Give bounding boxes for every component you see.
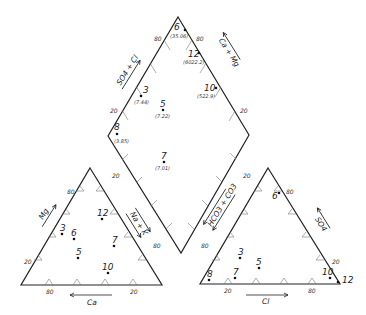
svg-text:12: 12: [97, 208, 109, 218]
piper-diagram: 80 80 20 20 SO4 + Cl Ca + Mg HCO3 + CO3 …: [0, 0, 366, 315]
diamond-points: 6 (35.06) 12 (6022.2) 10 (522.9) 3 (7.44…: [114, 22, 217, 171]
svg-text:3: 3: [60, 223, 66, 233]
svg-text:HCO3 + CO3: HCO3 + CO3: [205, 182, 238, 228]
cation-label-mg: Mg: [34, 199, 58, 227]
cation-tick-20-bottom: 20: [130, 288, 138, 295]
svg-text:Ca: Ca: [87, 298, 97, 307]
cation-tick-80-left: 80: [67, 188, 75, 195]
diamond-tick-20-right: 20: [240, 107, 248, 114]
svg-text:(35.06): (35.06): [170, 33, 188, 39]
svg-text:7: 7: [233, 267, 239, 277]
anion-label-cl: Cl: [246, 293, 288, 306]
cation-tick-20-right: 20: [112, 172, 120, 179]
svg-text:7: 7: [161, 151, 167, 161]
diamond-tick-80-left: 80: [154, 35, 162, 42]
cation-tick-20-left: 20: [24, 258, 32, 265]
diamond-label-na-k: Na + K: [124, 207, 152, 240]
diamond-label-ca-mg: Ca + Mg: [215, 31, 244, 68]
svg-text:5: 5: [160, 99, 166, 109]
anion-label-so4: SO4: [309, 207, 332, 234]
svg-text:5: 5: [256, 257, 262, 267]
svg-text:8: 8: [114, 122, 120, 132]
svg-text:5: 5: [76, 247, 82, 257]
anion-tick-80-bottom: 80: [308, 287, 316, 294]
anion-tick-80-left: 80: [201, 242, 209, 249]
svg-text:Ca + Mg: Ca + Mg: [217, 36, 242, 68]
cation-points: 3 6 12 7 5 10: [60, 208, 118, 274]
svg-text:(3.85): (3.85): [114, 138, 129, 144]
svg-text:3: 3: [143, 85, 149, 95]
svg-text:(7.01): (7.01): [155, 165, 170, 171]
svg-text:8: 8: [207, 269, 213, 279]
svg-text:(7.22): (7.22): [155, 113, 170, 119]
anion-tick-80-right: 80: [286, 188, 294, 195]
cation-tick-80-right: 80: [153, 242, 161, 249]
svg-text:(6022.2): (6022.2): [183, 59, 204, 65]
svg-text:3: 3: [238, 247, 244, 257]
cation-tick-80-bottom: 80: [46, 288, 54, 295]
svg-text:12: 12: [342, 275, 354, 285]
svg-text:Cl: Cl: [262, 297, 270, 306]
svg-text:10: 10: [322, 267, 334, 277]
svg-text:12: 12: [188, 49, 200, 59]
svg-text:6: 6: [71, 228, 77, 238]
svg-text:SO4: SO4: [313, 215, 329, 233]
svg-text:(522.9): (522.9): [197, 93, 215, 99]
svg-text:SO4 + Cl: SO4 + Cl: [115, 53, 141, 87]
svg-text:6: 6: [272, 191, 278, 201]
svg-text:6: 6: [174, 22, 180, 32]
diamond-tick-80-right: 80: [196, 35, 204, 42]
svg-text:10: 10: [204, 83, 216, 93]
cation-label-ca: Ca: [70, 293, 112, 307]
anion-tick-20-right: 20: [332, 258, 340, 265]
svg-text:(7.44): (7.44): [134, 99, 149, 105]
svg-text:7: 7: [112, 235, 118, 245]
anion-tick-20-bottom: 20: [224, 287, 232, 294]
anion-tick-20-left: 20: [243, 172, 251, 179]
diamond-tick-20-left: 20: [110, 107, 118, 114]
svg-text:10: 10: [102, 262, 114, 272]
svg-text:Mg: Mg: [37, 207, 51, 221]
